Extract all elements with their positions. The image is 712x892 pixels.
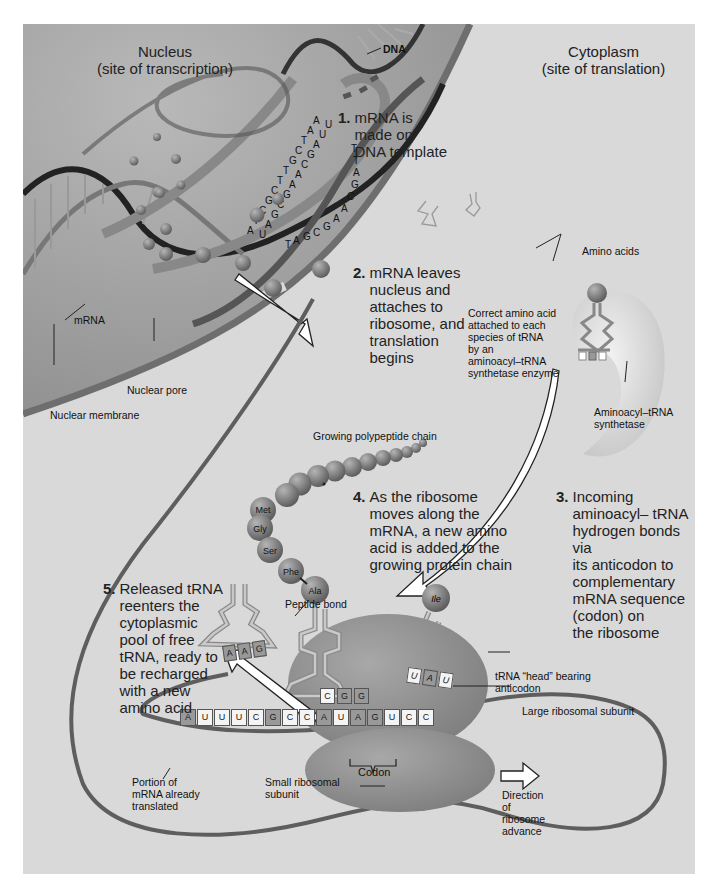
label-portion-translated: Portion of mRNA already translated — [132, 776, 200, 812]
label-line: synthetase enzyme — [468, 367, 558, 379]
step-number: 5. — [103, 580, 116, 716]
step-line: ribosome, and — [370, 315, 465, 332]
svg-text:T: T — [285, 239, 291, 250]
mrna-base: C — [248, 709, 264, 726]
label-line: Portion of — [132, 776, 200, 788]
step-line: with a new — [120, 682, 223, 699]
svg-text:C: C — [301, 159, 308, 170]
label-line: attached to each — [468, 319, 558, 331]
label-line: Correct amino acid — [468, 307, 558, 319]
svg-text:U: U — [259, 229, 266, 240]
label-line: ribosome — [502, 813, 545, 825]
label-codon: Codon — [358, 766, 390, 778]
mrna-base: G — [367, 709, 383, 726]
synthetase-enzyme — [573, 283, 665, 456]
mrna-base: C — [401, 709, 417, 726]
step-line: DNA template — [355, 143, 448, 160]
step-line: (codon) on — [573, 607, 695, 624]
anticodon-base: A — [237, 642, 252, 660]
svg-text:A: A — [247, 225, 254, 236]
diagram-panel: AAT CGT TCG CTA UUA GCA AGC GAU TTA GCA … — [23, 24, 695, 874]
anticodon-base: G — [354, 688, 369, 704]
step-1: 1. mRNA is made on DNA template — [338, 109, 447, 160]
step-line: growing protein chain — [370, 556, 513, 573]
label-line: synthetase — [594, 418, 673, 430]
step-line: tRNA, ready to — [120, 648, 223, 665]
label-line: anticodon — [495, 682, 591, 694]
free-trna — [418, 192, 480, 226]
label-mrna: mRNA — [74, 314, 105, 326]
step-2: 2. mRNA leaves nucleus and attaches to r… — [353, 264, 465, 366]
label-amino-acids: Amino acids — [582, 245, 639, 257]
label-dna: DNA — [383, 43, 406, 55]
label-line: advance — [502, 825, 545, 837]
label-line: aminoacyl–tRNA — [468, 355, 558, 367]
svg-text:G: G — [323, 221, 331, 232]
anticodon-base: G — [337, 688, 352, 704]
label-line: Aminoacyl–tRNA — [594, 406, 673, 418]
label-trna-head: tRNA “head” bearing anticodon — [495, 670, 591, 694]
label-small-subunit: Small ribosomal subunit — [265, 776, 340, 800]
label-line: tRNA “head” bearing — [495, 670, 591, 682]
label-correct-amino-acid: Correct amino acid attached to each spec… — [468, 307, 558, 379]
label-line: subunit — [265, 788, 340, 800]
step-line: As the ribosome — [370, 488, 513, 505]
svg-text:G: G — [351, 179, 359, 190]
cytoplasm-title-text: Cytoplasm — [536, 43, 671, 60]
label-synthetase: Aminoacyl–tRNA synthetase — [594, 406, 673, 430]
step-number: 1. — [338, 109, 351, 160]
step-line: nucleus and — [370, 281, 465, 298]
aa-gly: Gly — [253, 524, 267, 534]
svg-text:U: U — [319, 129, 326, 140]
mrna-base: U — [231, 709, 247, 726]
label-large-subunit: Large ribosomal subunit — [522, 705, 634, 717]
step-line: mRNA is — [355, 109, 448, 126]
nucleus-title: Nucleus (site of transcription) — [85, 43, 245, 77]
mrna-base: A — [350, 709, 366, 726]
bound-trna-anticodon: C G G — [320, 688, 369, 704]
aa-met: Met — [255, 505, 271, 515]
svg-text:G: G — [289, 155, 297, 166]
svg-text:G: G — [271, 209, 279, 220]
cytoplasm-title: Cytoplasm (site of translation) — [536, 43, 671, 77]
label-direction: Direction of ribosome advance — [502, 789, 545, 837]
step-line: aminoacyl– tRNA — [573, 505, 695, 522]
label-line: species of tRNA — [468, 331, 558, 343]
label-line: of — [502, 801, 545, 813]
nucleus-title-text: Nucleus — [85, 43, 245, 60]
anticodon-base: A — [422, 669, 438, 687]
step-line: mRNA leaves — [370, 264, 465, 281]
label-line: by an — [468, 343, 558, 355]
anticodon-base: G — [252, 640, 267, 658]
step-line: its anticodon to — [573, 556, 695, 573]
mrna-base: C — [282, 709, 298, 726]
svg-text:A: A — [293, 235, 300, 246]
label-line: translated — [132, 800, 200, 812]
anticodon-base: U — [406, 667, 422, 685]
step-line: be recharged — [120, 665, 223, 682]
mrna-base: C — [299, 709, 315, 726]
step-line: Released tRNA — [120, 580, 223, 597]
svg-text:G: G — [303, 231, 311, 242]
step-line: begins — [370, 349, 465, 366]
label-nuclear-membrane: Nuclear membrane — [50, 409, 139, 421]
svg-text:A: A — [313, 115, 320, 126]
step-line: mRNA sequence — [573, 590, 695, 607]
anticodon-base: A — [222, 644, 237, 662]
step-5: 5. Released tRNA reenters the cytoplasmi… — [103, 580, 223, 716]
mrna-base: G — [265, 709, 281, 726]
label-line: mRNA already — [132, 788, 200, 800]
mrna-base: C — [418, 709, 434, 726]
step-4: 4. As the ribosome moves along the mRNA,… — [353, 488, 512, 573]
cytoplasm-subtitle-text: (site of translation) — [536, 60, 671, 77]
anticodon-base: C — [320, 688, 335, 704]
step-line: Incoming — [573, 488, 695, 505]
step-line: moves along the — [370, 505, 513, 522]
step-number: 4. — [353, 488, 366, 573]
step-line: hydrogen bonds via — [573, 522, 695, 556]
label-line: Small ribosomal — [265, 776, 340, 788]
step-line: translation — [370, 332, 465, 349]
svg-text:A: A — [341, 203, 348, 214]
step-line: cytoplasmic — [120, 614, 223, 631]
step-line: mRNA, a new amino — [370, 522, 513, 539]
